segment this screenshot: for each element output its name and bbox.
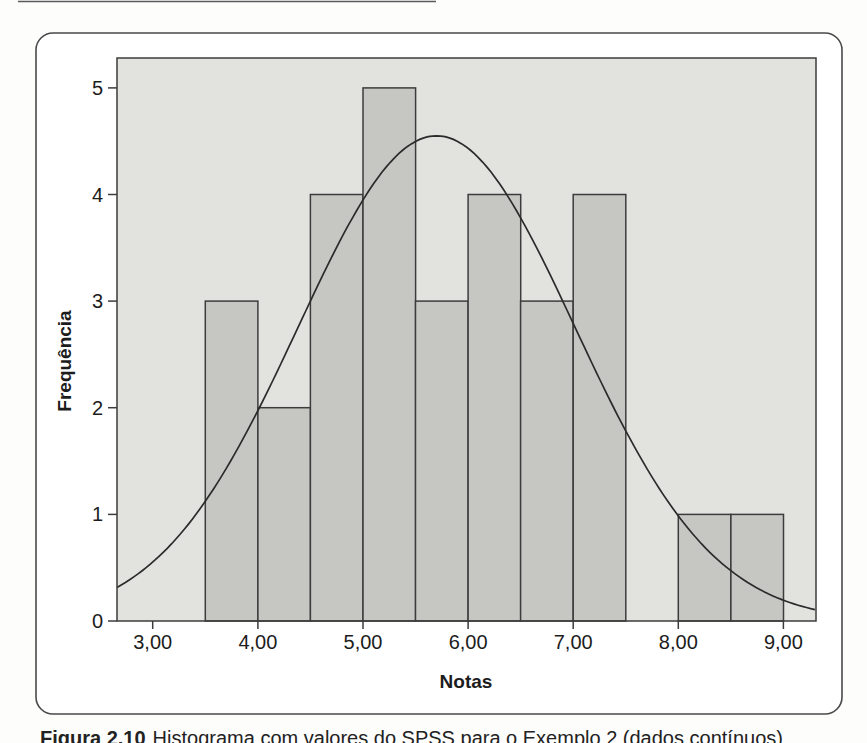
histogram-bar [521, 301, 574, 621]
x-tick-label: 4,00 [238, 631, 277, 653]
histogram-bar [258, 408, 311, 621]
x-tick-label: 6,00 [449, 631, 488, 653]
y-tick-label: 1 [92, 503, 103, 525]
caption-description: Histograma com valores do SPSS para o Ex… [153, 727, 783, 743]
y-tick-label: 4 [92, 184, 103, 206]
histogram-figure-canvas: 3,004,005,006,007,008,009,00012345 Frequ… [0, 0, 867, 743]
x-tick-label: 7,00 [554, 631, 593, 653]
plot-area: 3,004,005,006,007,008,009,00012345 [92, 58, 816, 653]
x-tick-label: 5,00 [344, 631, 383, 653]
histogram-bar [363, 88, 416, 621]
y-tick-label: 2 [92, 397, 103, 419]
x-tick-label: 8,00 [659, 631, 698, 653]
histogram-bar [573, 195, 626, 622]
x-axis-title: Notas [440, 671, 493, 692]
y-tick-label: 3 [92, 290, 103, 312]
y-axis-title: Frequência [54, 310, 75, 412]
figure-caption: Figura 2.10Histograma com valores do SPS… [40, 726, 860, 743]
histogram-bar [310, 195, 363, 622]
y-tick-label: 5 [92, 77, 103, 99]
scanned-figure-page: 3,004,005,006,007,008,009,00012345 Frequ… [0, 0, 867, 743]
caption-figure-number: Figura 2.10 [40, 727, 146, 743]
histogram-bar [468, 195, 521, 622]
x-tick-label: 9,00 [764, 631, 803, 653]
histogram-bar [205, 301, 258, 621]
histogram-bar [416, 301, 469, 621]
histogram-bar [731, 514, 784, 621]
histogram-bar [678, 514, 731, 621]
x-tick-label: 3,00 [133, 631, 172, 653]
y-tick-label: 0 [92, 610, 103, 632]
